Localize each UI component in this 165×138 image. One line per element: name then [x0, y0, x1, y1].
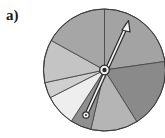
sector-1: [105, 9, 165, 70]
spinner[interactable]: [0, 0, 165, 138]
hub-icon: [100, 65, 110, 75]
